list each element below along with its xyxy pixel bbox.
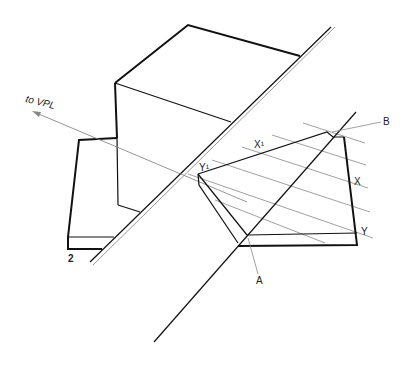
wedge-shape — [198, 132, 357, 246]
box-shape — [115, 25, 300, 212]
picture-plane-line — [90, 27, 335, 265]
label-x: X — [354, 177, 361, 187]
perspective-drawing — [0, 0, 409, 365]
label-b: B — [383, 117, 390, 127]
label-y: Y — [361, 227, 368, 237]
label-a: A — [256, 276, 263, 286]
leader-b — [332, 122, 381, 132]
label-x1: X¹ — [254, 140, 264, 150]
label-figure-2: 2 — [68, 254, 74, 264]
label-y1: Y¹ — [199, 163, 209, 173]
slab-shape — [68, 138, 117, 249]
leader-a — [248, 238, 258, 274]
vpl-arrow — [32, 111, 247, 202]
